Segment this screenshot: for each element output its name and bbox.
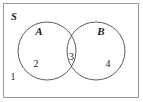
- set-b-label: B: [96, 25, 104, 37]
- venn-diagram-canvas: S A B 1 2 3 4: [0, 0, 143, 102]
- set-a-label: A: [34, 25, 42, 37]
- region-label-b-only: 4: [106, 58, 111, 69]
- region-label-outside: 1: [11, 71, 16, 82]
- region-label-intersection: 3: [69, 51, 74, 62]
- region-label-a-only: 2: [34, 58, 39, 69]
- venn-diagram-figure: S A B 1 2 3 4: [0, 0, 143, 102]
- universal-set-label: S: [11, 11, 17, 22]
